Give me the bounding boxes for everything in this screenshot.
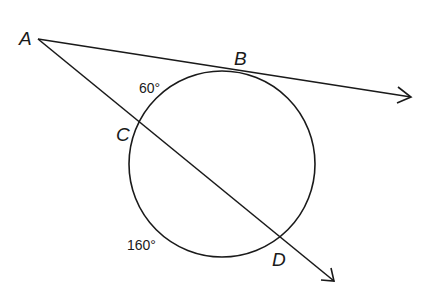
label-point-B: B bbox=[234, 48, 247, 69]
tangent-ray-AB bbox=[38, 39, 411, 97]
arc-measure-CD: 160° bbox=[127, 237, 156, 253]
arc-measure-BC: 60° bbox=[139, 80, 160, 96]
label-point-C: C bbox=[116, 124, 130, 145]
secant-ray-ACD bbox=[38, 39, 334, 281]
label-point-D: D bbox=[272, 249, 286, 270]
circle bbox=[129, 71, 315, 257]
label-point-A: A bbox=[18, 28, 32, 49]
geometry-diagram: A B C D 60° 160° bbox=[0, 0, 439, 294]
